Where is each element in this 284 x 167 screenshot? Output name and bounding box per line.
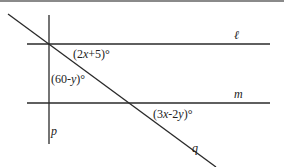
label-q: q [192, 141, 198, 155]
angle-3x-minus-2y: (3x-2y)° [153, 107, 193, 121]
label-m: m [234, 87, 243, 101]
label-p: p [50, 124, 57, 138]
line-q [8, 14, 216, 167]
angle-2x-plus-5: (2x+5)° [73, 47, 110, 61]
parallel-lines-diagram: ℓ m p q (2x+5)° (60-y)° (3x-2y)° [0, 0, 284, 167]
label-l: ℓ [234, 28, 239, 42]
angle-60-minus-y: (60-y)° [51, 72, 85, 86]
